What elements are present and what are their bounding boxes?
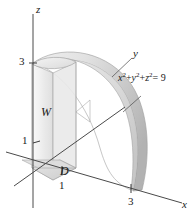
tick-label-z-1: 1 xyxy=(22,135,28,146)
solid-label-w: W xyxy=(41,106,51,118)
tick-label-x-3: 3 xyxy=(128,196,134,207)
sphere-solid-figure: z y x 3 1 1 3 W D x2+y2+z2= 9 xyxy=(0,0,196,219)
z-axis-label: z xyxy=(36,4,40,15)
figure-graphics xyxy=(0,0,196,219)
sphere-equation: x2+y2+z2= 9 xyxy=(118,72,166,83)
tick-label-x-1: 1 xyxy=(59,180,65,191)
x-axis-label: x xyxy=(182,199,187,210)
region-label-d: D xyxy=(60,165,69,177)
eq-equals: = 9 xyxy=(153,72,166,83)
tick-label-z-3: 3 xyxy=(19,56,25,67)
x-axis xyxy=(6,152,182,203)
y-axis-label: y xyxy=(133,48,138,59)
